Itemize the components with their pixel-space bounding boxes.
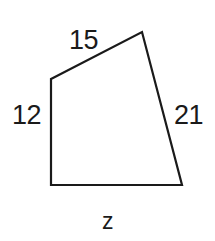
side-label-left: 12 bbox=[12, 102, 41, 129]
geometry-figure: 15 12 21 z bbox=[0, 0, 215, 241]
side-label-bottom-unknown: z bbox=[0, 210, 215, 233]
side-label-top: 15 bbox=[69, 27, 98, 54]
side-label-right: 21 bbox=[174, 102, 203, 129]
